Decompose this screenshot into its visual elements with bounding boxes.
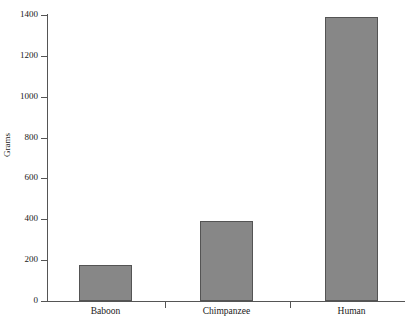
plot-area (47, 15, 405, 301)
x-axis-label: Human (338, 306, 366, 316)
y-axis-tick-label: 400 (2, 214, 38, 223)
x-axis-tick (290, 302, 291, 308)
y-axis-tick-label: 1200 (2, 51, 38, 60)
bar-baboon (79, 265, 132, 301)
x-axis-label: Chimpanzee (203, 306, 250, 316)
y-axis-tick-label: 200 (2, 255, 38, 264)
y-axis-tick-label: 1000 (2, 92, 38, 101)
y-axis-tick-label: 1400 (2, 10, 38, 19)
y-axis-title: Grams (2, 119, 12, 171)
bar-chimpanzee (200, 221, 253, 301)
x-axis-label: Baboon (91, 306, 121, 316)
bar-human (325, 17, 378, 301)
y-axis-tick-mark (41, 301, 47, 302)
y-axis-tick-label: 0 (2, 296, 38, 305)
y-axis-tick-label: 800 (2, 133, 38, 142)
x-axis-tick (165, 302, 166, 308)
x-axis-line (47, 301, 405, 302)
y-axis-tick-label: 600 (2, 173, 38, 182)
bar-chart: Grams 0200400600800100012001400 BaboonCh… (0, 0, 411, 326)
